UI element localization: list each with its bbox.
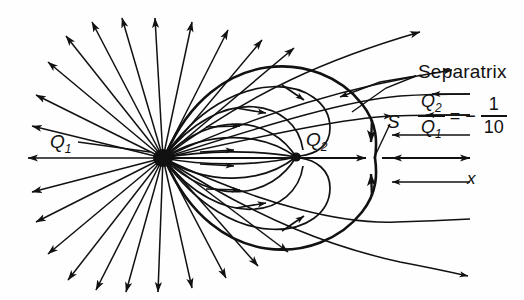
stagnation-point-label: S (387, 112, 400, 131)
strength-ratio-expression: Q2 Q1 = − 1 10 (418, 92, 507, 140)
field-line-svg (0, 0, 524, 300)
source-q1-label: Q1 (50, 132, 71, 155)
q2-symbol: Q (306, 129, 321, 150)
source-point-q1 (153, 149, 173, 167)
ratio-value-fraction: 1 10 (481, 95, 507, 137)
value-numerator: 1 (486, 95, 502, 114)
sink-point-q2 (291, 153, 301, 162)
equals-sign: = − (450, 106, 476, 127)
sink-q2-label: Q2 (306, 130, 327, 153)
ratio-fraction: Q2 Q1 (418, 92, 445, 140)
separatrix-label: Separatrix (418, 62, 507, 81)
value-denominator: 10 (481, 118, 507, 137)
ratio-numerator: Q2 (418, 92, 445, 114)
q1-subscript: 1 (65, 142, 72, 156)
figure-canvas: Separatrix Q1 Q2 S x Q2 Q1 = − 1 10 (0, 0, 524, 300)
separatrix-arrowheads (371, 120, 372, 196)
q2-subscript: 2 (321, 140, 328, 154)
q1-symbol: Q (50, 131, 65, 152)
x-axis-label: x (467, 170, 476, 187)
ratio-denominator: Q1 (418, 118, 445, 140)
